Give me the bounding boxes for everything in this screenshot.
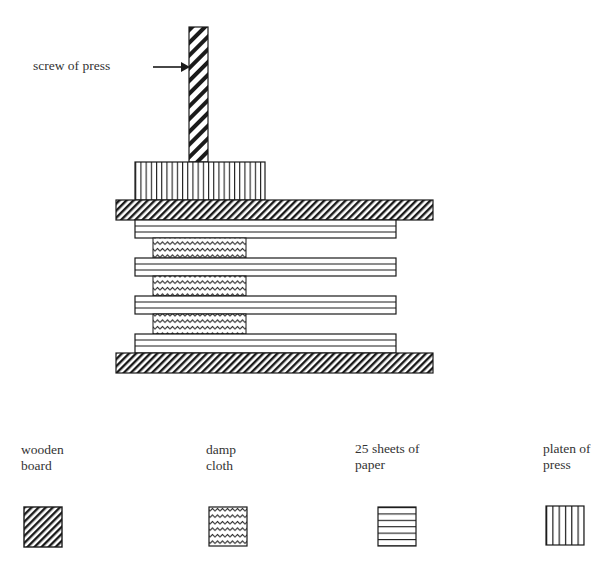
- platen-of-press: [135, 162, 265, 200]
- legend-swatch-platen: [546, 506, 584, 545]
- legend-swatch-wooden-board: [24, 507, 62, 547]
- screw-callout-label: screw of press: [33, 58, 110, 74]
- press-diagram: [0, 0, 611, 568]
- paper-stack-3: [135, 296, 396, 314]
- paper-stack-4: [135, 334, 396, 353]
- paper-stack-2: [135, 258, 396, 276]
- damp-cloth-3: [153, 314, 246, 334]
- wooden-board-bottom: [116, 353, 433, 373]
- legend-label-platen: platen of press: [543, 441, 591, 473]
- legend-swatch-damp-cloth: [209, 507, 247, 546]
- damp-cloth-2: [153, 276, 246, 296]
- legend-label-wooden-board: wooden board: [21, 442, 64, 474]
- wooden-board-top: [116, 200, 433, 220]
- paper-stack-1: [135, 220, 396, 238]
- screw-callout-arrow: [153, 62, 190, 72]
- legend-label-damp-cloth: damp cloth: [206, 442, 236, 474]
- legend-label-paper: 25 sheets of paper: [355, 441, 420, 473]
- legend-swatch-paper: [378, 507, 416, 546]
- screw-of-press: [189, 27, 208, 162]
- damp-cloth-1: [153, 238, 246, 258]
